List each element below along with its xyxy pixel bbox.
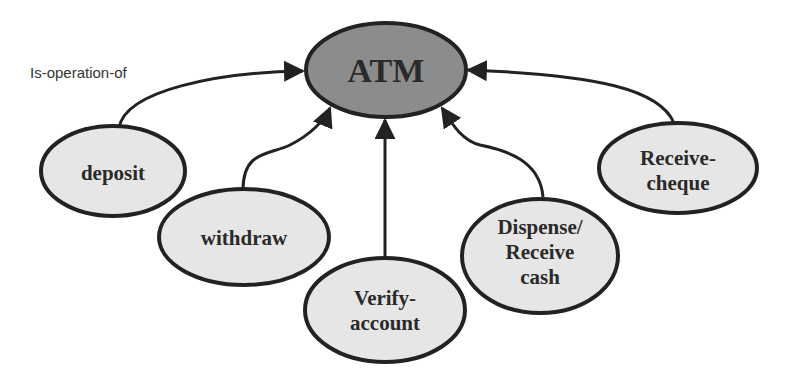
node-dispense-receive-cash: Dispense/ Receive cash: [462, 199, 618, 313]
svg-text:Receive: Receive: [506, 240, 575, 264]
svg-text:deposit: deposit: [81, 161, 145, 185]
atm-operations-diagram: Is-operation-of ATM deposit withdraw Ver…: [0, 0, 790, 372]
node-deposit: deposit: [41, 126, 185, 216]
svg-text:account: account: [350, 311, 420, 335]
svg-text:Receive-: Receive-: [640, 146, 716, 170]
svg-text:Dispense/: Dispense/: [497, 215, 583, 239]
edge-label: Is-operation-of: [30, 64, 128, 81]
node-receive-cheque: Receive- cheque: [599, 123, 757, 213]
edge-dispense: [442, 108, 543, 197]
node-withdraw: withdraw: [159, 189, 329, 285]
svg-text:cheque: cheque: [647, 171, 710, 195]
svg-text:cash: cash: [520, 265, 560, 289]
svg-text:withdraw: withdraw: [201, 226, 288, 250]
svg-text:ATM: ATM: [348, 52, 425, 89]
center-node-atm: ATM: [306, 23, 466, 117]
edge-receive-cheque: [468, 70, 674, 123]
edge-withdraw: [243, 108, 330, 190]
edge-deposit: [119, 71, 303, 128]
svg-text:Verify-: Verify-: [354, 286, 416, 310]
node-verify-account: Verify- account: [305, 258, 465, 362]
